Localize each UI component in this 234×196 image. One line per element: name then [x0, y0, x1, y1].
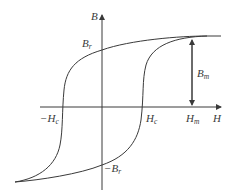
- hysteresis-upper-branch: [15, 36, 207, 182]
- axis-label-h: H: [212, 112, 222, 124]
- label-hc: Hc: [145, 112, 158, 126]
- label-hm: Hm: [185, 112, 200, 126]
- hysteresis-lower-branch: [15, 36, 221, 182]
- label-neg-br: −Br: [104, 162, 121, 176]
- axis-label-b: B: [91, 10, 98, 22]
- label-bm: Bm: [197, 67, 210, 81]
- label-neg-hc: −Hc: [40, 112, 59, 126]
- label-br: Br: [82, 37, 92, 51]
- hysteresis-diagram: B H Br −Br −Hc Hc Hm Bm: [0, 0, 234, 196]
